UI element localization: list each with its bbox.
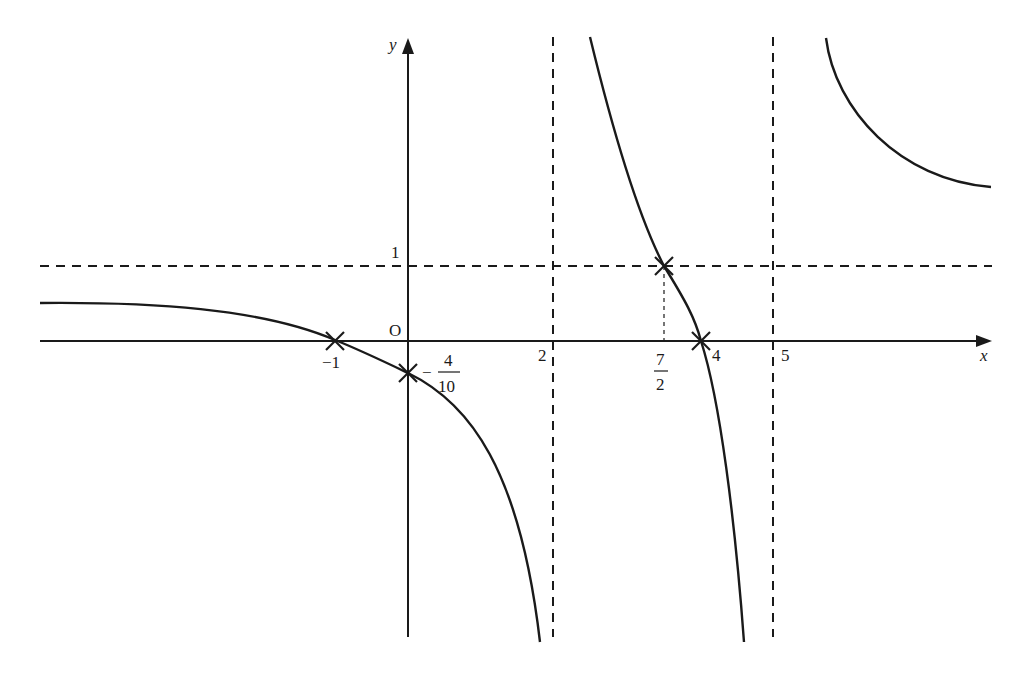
x-tick-2: 2 [538,346,547,365]
curve-left-branch [40,303,540,642]
x-tick-minus-1: −1 [322,353,340,372]
y-axis-arrow-icon [402,38,414,54]
x-axis-label: x [979,346,988,365]
x-tick-seven-denominator: 2 [656,375,665,394]
x-tick-5: 5 [781,346,790,365]
y-intercept-numerator: 4 [444,351,453,370]
x-tick-4: 4 [712,346,721,365]
curve-right-branch [826,38,991,187]
curve-middle-branch [590,37,744,642]
y-axis-label: y [387,35,397,54]
y-tick-1: 1 [391,243,400,262]
origin-label: O [389,321,401,340]
y-intercept-sign: − [422,363,432,382]
graph-canvas: y x O 1 −1 − 4 10 2 7 2 4 5 [0,0,1023,674]
y-intercept-denominator: 10 [438,377,455,396]
x-tick-seven-numerator: 7 [656,350,665,369]
